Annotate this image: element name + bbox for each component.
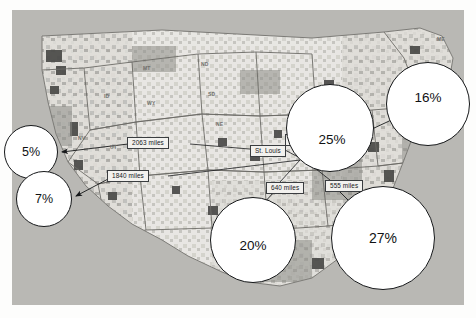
city-label-st-louis: St. Louis (250, 145, 286, 157)
state-label-id: ID (104, 94, 109, 99)
distance-label-2063: 2063 miles (127, 137, 169, 149)
state-label-nv: NV (78, 136, 85, 141)
callout-bubble-midwest: 25% (286, 84, 374, 172)
figure-canvas: MT ND SD NE WY ID NV UT ME 2063 miles 18… (0, 0, 476, 318)
callout-value-5: 5% (22, 146, 40, 159)
distance-label-640: 640 miles (266, 182, 304, 194)
callout-value-7: 7% (35, 193, 53, 206)
distance-label-1840: 1840 miles (107, 170, 149, 182)
callout-value-20: 20% (239, 239, 266, 253)
state-label-mt: MT (143, 66, 151, 71)
state-label-me: ME (437, 37, 445, 42)
state-label-ut: UT (110, 145, 117, 150)
callout-value-25: 25% (318, 133, 345, 147)
distance-label-555: 555 miles (325, 180, 363, 192)
callout-bubble-northeast: 16% (386, 62, 470, 146)
callout-bubble-west-coast-south: 7% (16, 171, 72, 227)
state-label-ne: NE (216, 122, 223, 127)
callout-bubble-southeast: 27% (331, 186, 435, 290)
callout-value-27: 27% (369, 231, 397, 245)
state-label-wy: WY (147, 101, 155, 106)
state-label-sd: SD (208, 92, 215, 97)
callout-value-16: 16% (414, 91, 441, 105)
callout-bubble-south-central: 20% (210, 197, 296, 283)
state-label-nd: ND (201, 62, 209, 67)
